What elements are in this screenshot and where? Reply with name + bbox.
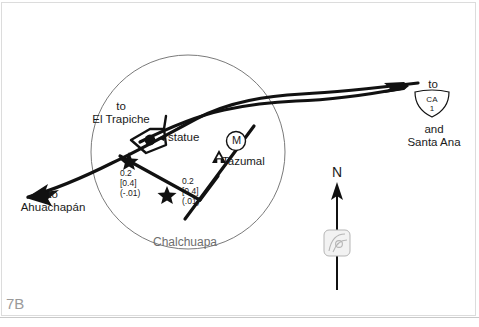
- label-to-el-trapiche: to El Trapiche: [78, 100, 164, 126]
- label-distance-right-segment: 0.2 [0.4] (.01): [182, 176, 222, 207]
- label-statue: statue: [168, 131, 199, 144]
- label-and-santa-ana: and Santa Ana: [396, 123, 472, 149]
- label-north: N: [325, 165, 349, 181]
- label-to-ca1: to: [404, 78, 462, 91]
- label-to-ahuachapan: to Ahuachapán: [2, 188, 104, 214]
- label-distance-left-segment: 0.2 [0.4] (-.01): [120, 168, 160, 199]
- map-figure: to El Trapiche statue M Tazumal 0.2 [0.4…: [0, 0, 479, 327]
- figure-plate-number: 7B: [6, 296, 24, 313]
- detail-area-circle: [91, 55, 285, 249]
- label-tazumal: Tazumal: [222, 155, 265, 168]
- label-shield-number: 1: [415, 105, 449, 114]
- label-chalchuapa: Chalchuapa: [138, 236, 232, 249]
- compass-emblem: [324, 230, 350, 256]
- statue-marker-dot: [145, 135, 156, 146]
- intersection-star-south: [158, 186, 177, 204]
- label-museum-symbol: M: [228, 134, 245, 146]
